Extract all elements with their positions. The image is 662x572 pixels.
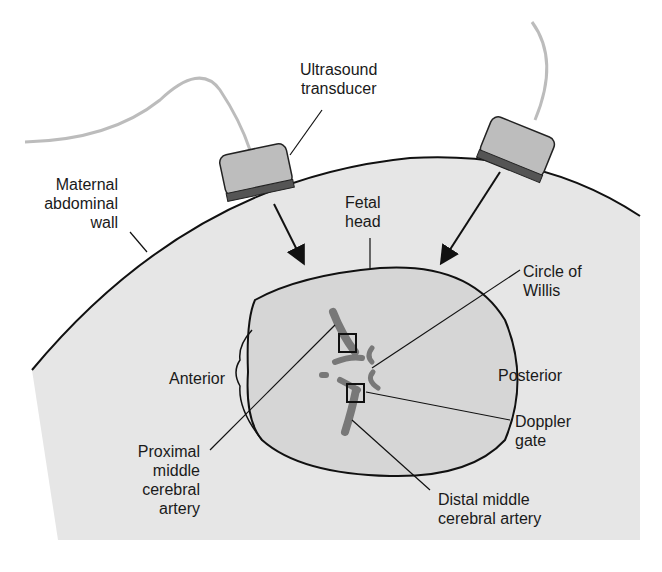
label-maternal-abdominal-wall: Maternal abdominal wall: [30, 175, 118, 232]
label-ultrasound-transducer: Ultrasound transducer: [300, 60, 377, 98]
label-fetal-head: Fetal head: [345, 193, 381, 231]
label-proximal-mca: Proximal middle cerebral artery: [100, 442, 200, 518]
transducer-cable-right: [532, 22, 547, 120]
label-doppler-gate: Doppler gate: [515, 412, 571, 450]
label-posterior: Posterior: [498, 366, 562, 385]
label-distal-mca: Distal middle cerebral artery: [438, 490, 541, 528]
label-anterior: Anterior: [140, 369, 225, 388]
label-circle-of-willis: Circle of Willis: [523, 262, 582, 300]
doppler-mca-diagram: Ultrasound transducer Maternal abdominal…: [0, 0, 662, 572]
transducer-cable-left: [25, 78, 250, 150]
